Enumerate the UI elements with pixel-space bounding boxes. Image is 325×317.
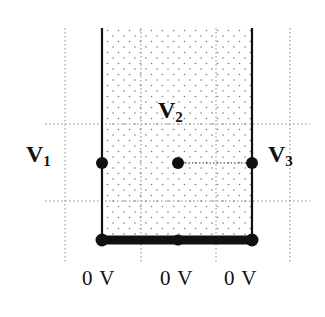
label-v3-sub: 3: [285, 153, 293, 169]
ground-label-left: 0 V: [82, 268, 116, 289]
label-v3-main: V: [268, 141, 285, 167]
label-v3: V3: [268, 142, 293, 169]
label-v2-sub: 2: [175, 109, 183, 125]
label-v1-sub: 1: [43, 153, 51, 169]
node-v1: [96, 157, 108, 169]
ground-label-mid: 0 V: [160, 268, 194, 289]
stippled-region: [102, 28, 252, 240]
node-ground-mid: [173, 235, 184, 246]
ground-label-right: 0 V: [224, 268, 258, 289]
node-v2: [172, 157, 184, 169]
label-v1-main: V: [26, 141, 43, 167]
label-v1: V1: [26, 142, 51, 169]
label-v2-main: V: [158, 97, 175, 123]
node-ground-right: [246, 234, 259, 247]
node-ground-left: [96, 234, 109, 247]
label-v2: V2: [158, 98, 183, 125]
node-v3: [246, 157, 258, 169]
